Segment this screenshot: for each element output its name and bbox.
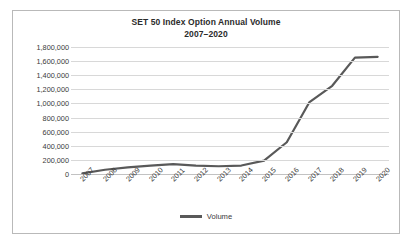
y-axis-tick-label: 1,400,000 (15, 71, 69, 80)
y-axis-tick-label: 0 (15, 170, 69, 179)
series-volume-line (71, 47, 389, 174)
gridline (71, 47, 389, 48)
gridline (71, 132, 389, 133)
gridline (71, 103, 389, 104)
chart-title: SET 50 Index Option Annual Volume 2007–2… (13, 17, 399, 40)
y-axis-tick-label: 1,200,000 (15, 85, 69, 94)
gridline (71, 118, 389, 119)
gridline (71, 146, 389, 147)
y-axis-tick-label: 1,600,000 (15, 57, 69, 66)
y-axis-tick-label: 1,000,000 (15, 99, 69, 108)
gridline (71, 61, 389, 62)
legend-swatch-volume (180, 215, 202, 217)
y-axis-tick-label: 200,000 (15, 155, 69, 164)
y-axis: 1,800,0001,600,0001,400,0001,200,0001,00… (13, 47, 69, 174)
y-axis-tick-label: 800,000 (15, 113, 69, 122)
chart-container: SET 50 Index Option Annual Volume 2007–2… (12, 10, 400, 234)
legend-label-volume: Volume (207, 212, 232, 221)
chart-title-line2: 2007–2020 (13, 29, 399, 41)
gridline (71, 160, 389, 161)
gridline (71, 75, 389, 76)
y-axis-tick-label: 1,800,000 (15, 43, 69, 52)
x-axis: 2007200820092010201120122013201420152016… (71, 177, 389, 213)
y-axis-tick-label: 400,000 (15, 141, 69, 150)
y-axis-tick-label: 600,000 (15, 127, 69, 136)
chart-legend: Volume (13, 212, 399, 221)
gridline (71, 89, 389, 90)
chart-title-line1: SET 50 Index Option Annual Volume (131, 17, 280, 27)
plot-area (71, 47, 389, 174)
